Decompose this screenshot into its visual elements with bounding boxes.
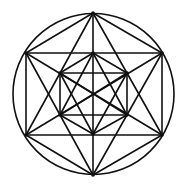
segment-T-UL bbox=[26, 13, 93, 53]
vertex-IUR bbox=[125, 71, 129, 75]
vertex-IUL bbox=[58, 71, 62, 75]
vertex-IT bbox=[91, 51, 95, 55]
geometric-figure bbox=[0, 0, 180, 187]
vertex-T bbox=[91, 11, 95, 15]
line-segments bbox=[26, 13, 162, 175]
vertex-ILR bbox=[125, 113, 129, 117]
vertex-UL bbox=[24, 51, 28, 55]
vertex-B bbox=[91, 173, 95, 177]
segment-B-LL bbox=[26, 135, 93, 175]
vertex-ILL bbox=[58, 113, 62, 117]
segment-T-UR bbox=[93, 13, 162, 53]
vertex-LL bbox=[24, 133, 28, 137]
vertex-LR bbox=[160, 133, 164, 137]
segment-B-LR bbox=[93, 135, 162, 175]
vertex-UR bbox=[160, 51, 164, 55]
vertex-IB bbox=[91, 132, 95, 136]
